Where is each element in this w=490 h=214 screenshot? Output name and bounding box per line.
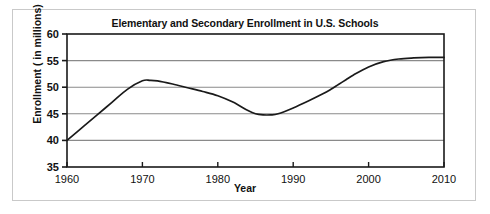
y-tick-label: 35: [47, 161, 59, 173]
y-tick-label: 55: [47, 55, 59, 67]
x-tick-label: 1970: [130, 173, 154, 185]
x-tick-label: 2010: [432, 173, 456, 185]
chart-plot-area: 354045505560 196019701980199020002010: [13, 10, 477, 202]
gridlines-group: [67, 61, 444, 141]
x-tick-labels: 196019701980199020002010: [55, 173, 456, 185]
x-tick-label: 1980: [206, 173, 230, 185]
y-tick-label: 50: [47, 81, 59, 93]
y-tick-label: 60: [47, 28, 59, 40]
plot-border: [67, 34, 444, 167]
y-tick-labels: 354045505560: [47, 28, 59, 173]
x-tick-label: 2000: [356, 173, 380, 185]
y-tick-label: 40: [47, 134, 59, 146]
enrollment-series-line: [67, 57, 444, 140]
x-tick-label: 1960: [55, 173, 79, 185]
chart-figure-frame: Elementary and Secondary Enrollment in U…: [12, 9, 476, 201]
x-tick-label: 1990: [281, 173, 305, 185]
y-tick-label: 45: [47, 108, 59, 120]
